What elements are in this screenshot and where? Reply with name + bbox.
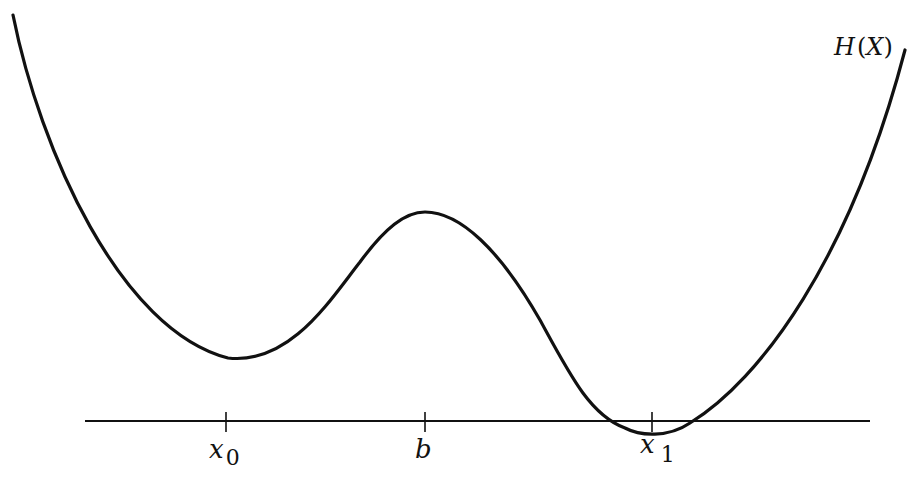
h-of-x-curve (13, 15, 905, 434)
tick-label-b: b (415, 434, 432, 464)
tick-label-x0: x0 (209, 434, 240, 470)
potential-diagram: H(X) x0 b x1 (0, 0, 908, 501)
curve-label: H(X) (833, 33, 893, 61)
